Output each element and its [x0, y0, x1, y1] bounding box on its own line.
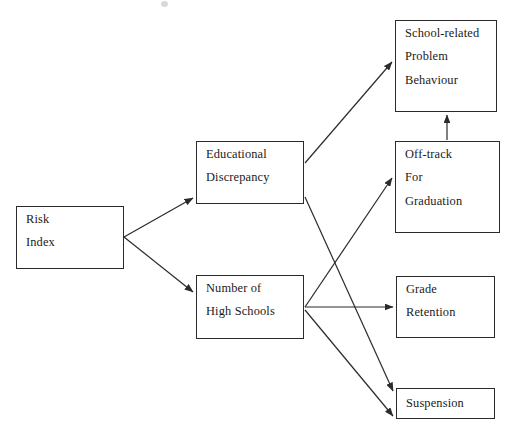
edge-risk-to-educational [124, 198, 193, 237]
node-educational-discrepancy-line-1: Educational [206, 148, 303, 160]
node-risk-index-line-1: Risk [26, 213, 123, 225]
edge-educational-to-school-related [305, 62, 392, 163]
node-number-of-high-schools-line-1: Number of [206, 282, 303, 294]
node-grade-retention-line-1: Grade [406, 283, 494, 295]
node-off-track-line-2: For [405, 171, 499, 183]
node-grade-retention[interactable]: Grade Retention [396, 276, 495, 338]
edge-educational-to-suspension [305, 197, 393, 391]
node-risk-index-line-2: Index [26, 236, 123, 248]
node-school-related-line-2: Problem [405, 50, 496, 62]
diagram-canvas: Risk Index Educational Discrepancy Numbe… [0, 0, 519, 429]
node-educational-discrepancy-line-2: Discrepancy [206, 171, 303, 183]
node-school-related-problem-behaviour[interactable]: School-related Problem Behaviour [395, 20, 497, 112]
edge-risk-to-highschools [124, 237, 193, 292]
node-off-track-line-1: Off-track [405, 148, 499, 160]
node-risk-index[interactable]: Risk Index [16, 206, 124, 269]
edge-highschools-to-offtrack [305, 178, 392, 307]
node-grade-retention-line-2: Retention [406, 306, 494, 318]
node-school-related-line-3: Behaviour [405, 74, 496, 86]
node-number-of-high-schools[interactable]: Number of High Schools [196, 275, 304, 339]
node-number-of-high-schools-line-2: High Schools [206, 305, 303, 317]
node-off-track-line-3: Graduation [405, 195, 499, 207]
node-school-related-line-1: School-related [405, 27, 496, 39]
node-suspension-line-1: Suspension [406, 397, 494, 409]
node-off-track-for-graduation[interactable]: Off-track For Graduation [395, 141, 500, 233]
node-suspension[interactable]: Suspension [396, 388, 495, 419]
scan-artifact-speck [161, 1, 168, 7]
node-educational-discrepancy[interactable]: Educational Discrepancy [196, 141, 304, 204]
